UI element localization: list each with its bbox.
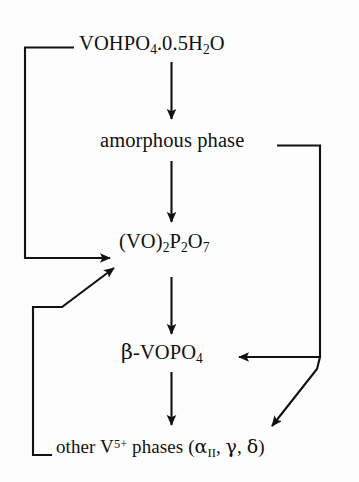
- node-precursor: VOHPO4.0.5H2O: [79, 33, 225, 56]
- node-amorphous-phase-label: amorphous phase: [100, 129, 244, 151]
- edge-other-to-pyro-left-rail: [33, 268, 114, 455]
- node-beta-vopo4: β-VOPO4: [121, 342, 203, 365]
- phase-transformation-diagram: VOHPO4.0.5H2O amorphous phase (VO)2P2O7 …: [0, 0, 359, 482]
- node-amorphous-phase: amorphous phase: [100, 130, 244, 151]
- edge-precursor-to-pyro-left-rail: [25, 48, 110, 259]
- node-other-v5-phases-label: other V5+ phases (αII, γ, δ): [56, 436, 265, 457]
- node-vanadyl-pyrophosphate-label: (VO)2P2O7: [119, 230, 209, 252]
- node-vanadyl-pyrophosphate: (VO)2P2O7: [119, 231, 209, 254]
- node-precursor-label: VOHPO4.0.5H2O: [79, 32, 225, 54]
- node-other-v5-phases: other V5+ phases (αII, γ, δ): [56, 437, 265, 459]
- edge-amorphous-to-other-right-rail: [272, 357, 320, 426]
- edge-amorphous-to-beta-right-rail: [239, 146, 320, 358]
- node-beta-vopo4-label: β-VOPO4: [121, 341, 203, 363]
